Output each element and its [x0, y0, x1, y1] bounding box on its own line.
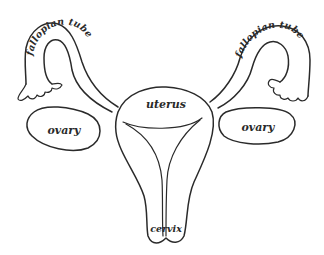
- left-ovary: ovary: [27, 107, 100, 150]
- uterus-label: uterus: [146, 98, 186, 111]
- left-tube-label: fallopian tube: [23, 15, 95, 57]
- left-ovary-label: ovary: [47, 124, 82, 137]
- right-fallopian-tube: fallopian tube: [210, 19, 310, 108]
- left-fallopian-tube: fallopian tube: [18, 15, 118, 112]
- right-ovary: ovary: [219, 108, 295, 144]
- right-ovary-label: ovary: [241, 121, 276, 134]
- reproductive-diagram: fallopian tube fallopian tube ovary ovar…: [0, 0, 324, 255]
- cervix-label: cervix: [150, 223, 182, 234]
- uterus: uterus: [116, 87, 214, 243]
- right-tube-label: fallopian tube: [232, 19, 307, 60]
